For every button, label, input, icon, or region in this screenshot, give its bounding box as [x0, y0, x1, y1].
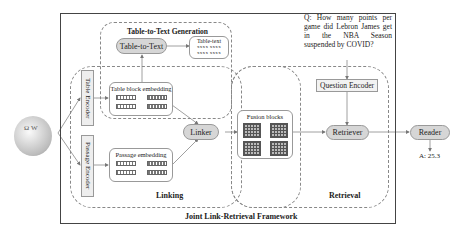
answer-text: A: 25.3: [419, 152, 440, 160]
question-encoder: Question Encoder: [316, 79, 378, 92]
globe-glyphs: Ω W: [24, 124, 38, 132]
fusion-label: Fusion blocks: [238, 113, 292, 120]
linking-label: Linking: [156, 191, 183, 200]
table-text-row: xxxx xxxx: [190, 50, 228, 56]
embedding-row: [110, 95, 172, 100]
table-encoder: Table Encoder: [81, 70, 94, 126]
fusion-row: [238, 141, 292, 156]
table-text-box: Table-text xxxx xxxx xxxx xxxx: [189, 36, 229, 59]
fusion-row: [238, 123, 292, 138]
linker-module: Linker: [183, 124, 219, 140]
wikipedia-globe-icon: Ω W: [14, 116, 52, 156]
table-encoder-label: Table Encoder: [84, 78, 92, 119]
fusion-blocks: Fusion blocks: [237, 110, 293, 159]
embedding-row: [110, 104, 172, 109]
passage-encoder: Passage Encoder: [81, 135, 94, 197]
embedding-row: [110, 161, 172, 166]
table-block-embedding: Table block embedding: [109, 82, 173, 116]
passage-encoder-label: Passage Encoder: [84, 142, 92, 189]
table-embedding-label: Table block embedding: [110, 85, 172, 92]
embedding-row: [110, 170, 172, 175]
passage-embedding-label: Passage embedding: [110, 151, 172, 158]
reader-module: Reader: [410, 125, 450, 140]
retrieval-label: Retrieval: [329, 191, 361, 200]
framework-label: Joint Link-Retrieval Framework: [185, 212, 297, 221]
retriever-module: Retriever: [326, 125, 369, 140]
question-text: Q: How many points per game did Lebron J…: [304, 13, 392, 49]
table-to-text-title: Table-to-Text Generation: [127, 27, 208, 36]
table-to-text-module: Table-to-Text: [116, 38, 167, 54]
passage-embedding: Passage embedding: [109, 148, 173, 182]
